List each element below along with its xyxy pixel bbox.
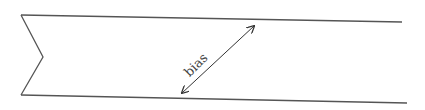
strip-bottom-edge xyxy=(21,95,407,103)
bias-label: bias xyxy=(181,50,211,80)
strip-notched-end xyxy=(21,15,43,95)
diagram-canvas: bias xyxy=(0,0,425,110)
strip-top-edge xyxy=(21,15,402,22)
